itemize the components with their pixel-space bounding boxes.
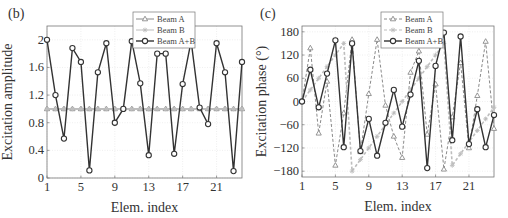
star-marker <box>475 128 480 133</box>
star-marker <box>155 107 160 112</box>
circle-marker <box>391 87 396 92</box>
circle-marker <box>121 106 126 111</box>
star-marker <box>163 107 168 112</box>
star-marker <box>70 107 75 112</box>
circle-marker <box>366 116 371 121</box>
y-tick-label: 120 <box>280 48 299 62</box>
series-beam-a <box>299 37 496 171</box>
circle-marker <box>95 70 100 75</box>
circle-marker <box>425 165 430 170</box>
x-axis-label: Elem. index <box>111 200 179 215</box>
star-marker <box>180 107 185 112</box>
star-marker <box>450 163 455 168</box>
circle-marker <box>112 120 117 125</box>
x-tick-label: 5 <box>78 180 84 194</box>
triangle-marker <box>383 103 388 108</box>
star-marker <box>483 117 488 122</box>
x-tick-label: 21 <box>210 180 223 194</box>
axes-frame <box>47 26 242 178</box>
star-marker <box>366 146 371 151</box>
x-tick-label: 1 <box>44 180 50 194</box>
circle-marker <box>222 70 227 75</box>
legend-label: Beam B <box>157 25 185 35</box>
legend-star-marker <box>391 28 396 33</box>
legend-circle-marker <box>142 38 147 43</box>
x-tick-label: 5 <box>332 179 338 193</box>
circle-marker <box>483 145 488 150</box>
legend-label: Beam A+B <box>405 36 443 46</box>
legend-label: Beam A+B <box>157 36 195 46</box>
star-marker <box>400 99 405 104</box>
circle-marker <box>408 92 413 97</box>
circle-marker <box>70 46 75 51</box>
star-marker <box>189 107 194 112</box>
star-marker <box>341 41 346 46</box>
triangle-marker <box>441 166 446 171</box>
amplitude-chart: 15913172100.40.81.21.62Elem. indexExcita… <box>0 0 254 218</box>
circle-marker <box>333 38 338 43</box>
y-tick-label: 1.2 <box>28 88 44 102</box>
star-marker <box>146 107 151 112</box>
y-tick-label: 0.4 <box>28 143 44 157</box>
star-marker <box>231 107 236 112</box>
star-marker <box>391 111 396 116</box>
x-tick-label: 13 <box>396 179 409 193</box>
triangle-marker <box>483 39 488 44</box>
circle-marker <box>316 105 321 110</box>
legend-circle-marker <box>390 38 395 43</box>
y-axis-label: Excitation amplitude <box>0 43 15 160</box>
circle-marker <box>433 63 438 68</box>
circle-marker <box>375 153 380 158</box>
x-tick-label: 13 <box>142 180 155 194</box>
star-marker <box>240 107 245 112</box>
panel-label: (b) <box>8 6 25 22</box>
triangle-marker <box>475 93 480 98</box>
circle-marker <box>87 168 92 173</box>
circle-marker <box>163 51 168 56</box>
circle-marker <box>231 168 236 173</box>
star-marker <box>138 107 143 112</box>
x-axis-label: Elem. index <box>364 199 432 214</box>
y-tick-label: −180 <box>273 164 299 178</box>
circle-marker <box>358 148 363 153</box>
triangle-marker <box>333 163 338 168</box>
series-beam-a-b <box>44 37 244 173</box>
star-marker <box>95 107 100 112</box>
circle-marker <box>44 37 49 42</box>
x-tick-label: 1 <box>299 179 305 193</box>
star-marker <box>87 107 92 112</box>
triangle-marker <box>400 155 405 160</box>
grid-lines <box>47 26 242 178</box>
star-marker <box>104 107 109 112</box>
y-tick-label: −120 <box>273 141 299 155</box>
circle-marker <box>475 107 480 112</box>
legend-label: Beam A <box>405 14 433 24</box>
circle-marker <box>214 41 219 46</box>
circle-marker <box>299 99 304 104</box>
circle-marker <box>400 124 405 129</box>
circle-marker <box>78 59 83 64</box>
legend-label: Beam B <box>405 25 433 35</box>
legend: Beam ABeam BBeam A+B <box>381 12 443 48</box>
legend-star-marker <box>143 28 148 33</box>
y-tick-label: 1.6 <box>28 60 44 74</box>
star-marker <box>45 107 50 112</box>
circle-marker <box>104 41 109 46</box>
star-marker <box>129 107 134 112</box>
triangle-marker <box>416 48 421 53</box>
circle-marker <box>349 41 354 46</box>
star-marker <box>316 76 321 81</box>
y-tick-label: 180 <box>280 25 299 39</box>
chart-panel-b: 15913172100.40.81.21.62Elem. indexExcita… <box>0 0 254 218</box>
circle-marker <box>383 120 388 125</box>
star-marker <box>62 107 67 112</box>
star-marker <box>172 107 177 112</box>
triangle-marker <box>375 37 380 42</box>
circle-marker <box>308 67 313 72</box>
x-tick-label: 21 <box>463 179 476 193</box>
phase-chart: 159131721−180−120−60060120180Elem. index… <box>254 0 508 218</box>
x-tick-label: 9 <box>112 180 118 194</box>
circle-marker <box>155 51 160 56</box>
circle-marker <box>138 81 143 86</box>
triangle-marker <box>408 70 413 75</box>
